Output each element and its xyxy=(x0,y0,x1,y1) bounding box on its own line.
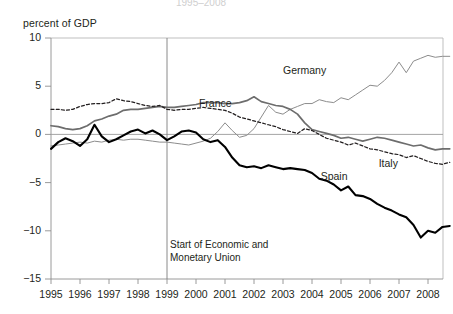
y-tick-label: −5 xyxy=(13,176,41,188)
x-tick-label: 2008 xyxy=(411,288,445,300)
series-line-germany xyxy=(51,55,450,146)
chart-figure: 1995–2008 percent of GDP 1050−5−10−15 19… xyxy=(0,0,453,314)
y-axis-title: percent of GDP xyxy=(23,17,97,29)
series-line-spain xyxy=(51,125,450,238)
figure-faint-title: 1995–2008 xyxy=(176,0,226,8)
series-label-france: France xyxy=(199,97,232,109)
emu-annotation-line2: Monetary Union xyxy=(170,252,241,263)
y-tick-label: −15 xyxy=(13,272,41,284)
y-tick-label: 0 xyxy=(13,127,41,139)
series-label-spain: Spain xyxy=(321,170,348,182)
series-label-italy: Italy xyxy=(379,157,398,169)
y-tick-label: 10 xyxy=(13,31,41,43)
emu-annotation-line1: Start of Economic and xyxy=(170,239,268,250)
series-layer xyxy=(51,55,450,237)
y-tick-label: −10 xyxy=(13,224,41,236)
y-tick-label: 5 xyxy=(13,79,41,91)
series-label-germany: Germany xyxy=(283,64,326,76)
